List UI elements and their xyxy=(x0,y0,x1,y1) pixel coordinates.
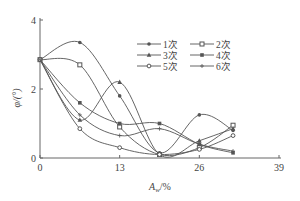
series-2 xyxy=(38,58,235,157)
y-axis-label: φ/(°) xyxy=(11,88,23,108)
svg-text:1次: 1次 xyxy=(163,39,178,50)
axis-ticks: 0132639024 xyxy=(31,15,284,173)
x-tick-label: 13 xyxy=(115,162,125,173)
legend-item: 3次 xyxy=(137,50,178,61)
svg-text:4次: 4次 xyxy=(216,50,231,61)
legend-item: 6次 xyxy=(190,61,231,72)
legend-item: 5次 xyxy=(137,61,178,72)
series-4 xyxy=(38,58,235,155)
legend-item: 1次 xyxy=(137,39,178,50)
series-3 xyxy=(38,57,236,157)
y-tick-label: 0 xyxy=(31,153,36,164)
y-tick-label: 4 xyxy=(31,15,36,26)
legend-item: 2次 xyxy=(190,39,231,50)
x-axis-label: Aw/% xyxy=(148,181,171,194)
svg-text:3次: 3次 xyxy=(163,50,178,61)
svg-text:6次: 6次 xyxy=(216,61,231,72)
svg-text:5次: 5次 xyxy=(163,61,178,72)
series-5 xyxy=(38,58,235,157)
data-series xyxy=(38,41,236,158)
line-chart: 0132639024 φ/(°) Aw/% 1次2次3次4次5次6次 xyxy=(0,0,300,201)
y-tick-label: 2 xyxy=(31,84,36,95)
x-tick-label: 0 xyxy=(38,162,43,173)
series-1 xyxy=(38,41,235,155)
x-tick-label: 26 xyxy=(194,162,204,173)
x-tick-label: 39 xyxy=(274,162,284,173)
svg-text:2次: 2次 xyxy=(216,39,231,50)
legend-item: 4次 xyxy=(190,50,231,61)
legend: 1次2次3次4次5次6次 xyxy=(137,39,231,72)
